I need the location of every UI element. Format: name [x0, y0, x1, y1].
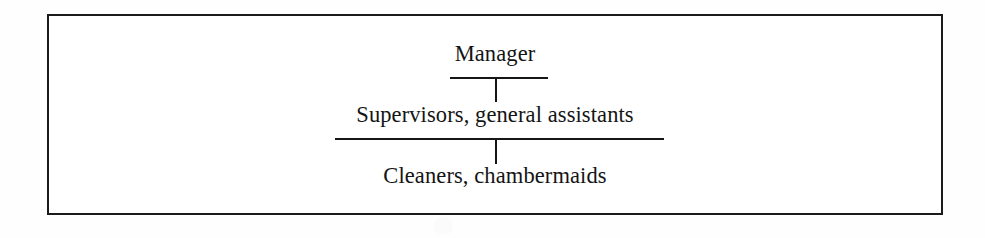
scan-page: Manager Supervisors, general assistants …: [0, 0, 985, 238]
org-stem-supervisors-to-cleaners: [495, 140, 497, 164]
org-hierarchy-chart: Manager Supervisors, general assistants …: [49, 16, 941, 213]
org-tier-supervisors-label: Supervisors, general assistants: [356, 103, 633, 126]
org-tier-cleaners-label: Cleaners, chambermaids: [383, 164, 606, 187]
figure-frame: Manager Supervisors, general assistants …: [47, 14, 943, 215]
org-tier-manager-label: Manager: [455, 42, 536, 65]
org-stem-manager-to-supervisors: [495, 79, 497, 102]
org-rule-below-supervisors: [335, 138, 664, 140]
org-tier-supervisors: Supervisors, general assistants: [49, 103, 941, 126]
org-tier-manager: Manager: [49, 42, 941, 65]
org-tier-cleaners: Cleaners, chambermaids: [49, 164, 941, 187]
org-rule-below-manager: [450, 77, 548, 79]
